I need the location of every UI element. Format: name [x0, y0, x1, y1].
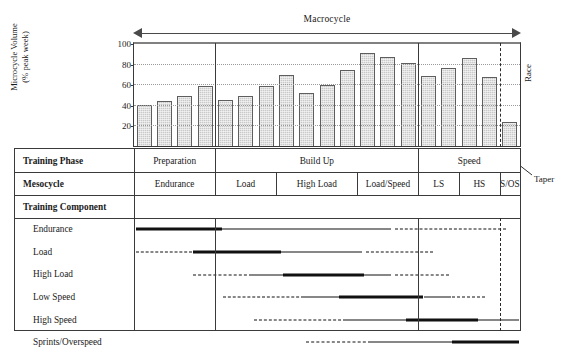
bar	[462, 58, 477, 147]
training-component-label: Endurance	[25, 218, 134, 241]
bar	[320, 85, 335, 147]
y-axis-tick-mark	[131, 126, 134, 127]
phase-cell-divider	[418, 149, 419, 172]
phase-cell-divider	[215, 149, 216, 172]
training-component-label: High Load	[25, 263, 134, 286]
y-axis-tick-label: 80	[122, 60, 131, 70]
bar	[218, 100, 233, 147]
mesocycle-cell: S/OS	[500, 172, 520, 195]
y-axis-tick-mark	[131, 85, 134, 86]
mesocycle-cell: Load/Speed	[357, 172, 418, 195]
bar	[380, 57, 395, 147]
mesocycle-cell: Load	[215, 172, 276, 195]
y-axis-tick-mark	[131, 44, 134, 45]
mesocycle-cell-divider	[500, 172, 501, 195]
gantt-segment-high-load	[395, 274, 449, 275]
training-component-label: Load	[25, 241, 134, 264]
gantt-segment-load	[136, 251, 192, 252]
mesocycle-cell-divider	[276, 172, 277, 195]
bar-chart-plot-area: 20406080100	[133, 42, 521, 147]
gridline: 20	[134, 125, 520, 126]
taper-divider	[500, 43, 501, 147]
mesocycle-cell: HS	[459, 172, 500, 195]
gantt-segment-high-speed	[346, 319, 406, 320]
gantt-segment-endurance	[395, 229, 507, 230]
y-axis-title-line1: Microcycle Volume	[9, 0, 20, 117]
bar	[441, 68, 456, 147]
gridline: 100	[134, 43, 520, 44]
mesocycle-cell: LS	[418, 172, 459, 195]
gantt-segment-low-speed	[424, 297, 451, 298]
bar	[238, 96, 253, 148]
macrocycle-arrow: Macrocycle	[133, 14, 521, 40]
y-axis-title: Microcycle Volume (% peak week)	[9, 0, 31, 117]
gantt-segment-sprints-overspeed	[306, 342, 372, 343]
training-phase-cell: Preparation	[134, 149, 215, 172]
bar	[360, 53, 375, 147]
bar	[482, 77, 497, 147]
phase-divider	[418, 43, 419, 147]
mesocycle-cell-divider	[215, 172, 216, 195]
y-axis-tick-mark	[131, 65, 134, 66]
mesocycle-row-label: Mesocycle	[15, 172, 134, 195]
mesocycle-cell-divider	[357, 172, 358, 195]
arrow-head-right-icon	[512, 28, 521, 38]
training-component-label: High Speed	[25, 308, 134, 331]
mesocycle-cell-divider	[418, 172, 419, 195]
bar-series	[134, 43, 520, 147]
gantt-segment-high-load	[283, 273, 364, 276]
gantt-segment-endurance	[222, 229, 391, 230]
phase-divider	[215, 43, 216, 147]
gantt-segment-high-speed	[406, 318, 477, 321]
gantt-segment-endurance	[136, 228, 221, 231]
bar	[421, 76, 436, 147]
gantt-segment-sprints-overspeed	[452, 341, 519, 344]
gantt-segment-load	[366, 251, 434, 252]
gantt-phase-divider	[418, 218, 419, 331]
bar	[299, 93, 314, 147]
gridline: 60	[134, 84, 520, 85]
bar	[259, 86, 274, 147]
gantt-segment-high-speed	[478, 319, 520, 320]
training-phase-cell: Speed	[418, 149, 520, 172]
gridline: 80	[134, 64, 520, 65]
bar	[177, 96, 192, 148]
gantt-segment-sprints-overspeed	[371, 342, 452, 343]
label-column-divider	[134, 218, 135, 331]
gantt-segment-load	[193, 250, 281, 253]
y-axis-tick-label: 20	[122, 121, 131, 131]
gantt-taper-divider	[500, 218, 501, 331]
training-phase-row-label: Training Phase	[15, 149, 134, 172]
mesocycle-cell: High Load	[276, 172, 357, 195]
gantt-segment-high-load	[364, 274, 391, 275]
y-axis-tick-label: 60	[122, 80, 131, 90]
gantt-segment-high-load	[193, 274, 252, 275]
gantt-segment-high-speed	[254, 319, 347, 320]
bar	[157, 101, 172, 147]
gantt-segment-low-speed	[223, 297, 304, 298]
x-axis-baseline	[134, 146, 520, 147]
gantt-segment-low-speed	[339, 296, 424, 299]
macrocycle-label: Macrocycle	[133, 14, 521, 24]
plot-inner: 20406080100	[134, 43, 520, 147]
mesocycle-cell-divider	[459, 172, 460, 195]
bar	[340, 70, 355, 147]
gantt-segment-low-speed	[452, 297, 485, 298]
bar	[198, 86, 213, 147]
gantt-segment-low-speed	[304, 297, 339, 298]
gantt-segment-high-load	[252, 274, 283, 275]
gantt-phase-divider	[215, 218, 216, 331]
training-component-label: Sprints/Overspeed	[25, 331, 134, 351]
y-axis-tick-label: 40	[122, 101, 131, 111]
training-component-label: Low Speed	[25, 286, 134, 309]
y-axis-tick-mark	[131, 106, 134, 107]
taper-label: Taper	[534, 174, 554, 184]
bar	[279, 75, 294, 147]
gridline: 40	[134, 105, 520, 106]
macrocycle-line	[141, 33, 513, 34]
y-axis-tick-label: 100	[118, 39, 132, 49]
y-axis-title-line2: (% peak week)	[20, 0, 31, 117]
gantt-segment-load	[281, 251, 362, 252]
training-component-row-label: Training Component	[15, 195, 134, 218]
